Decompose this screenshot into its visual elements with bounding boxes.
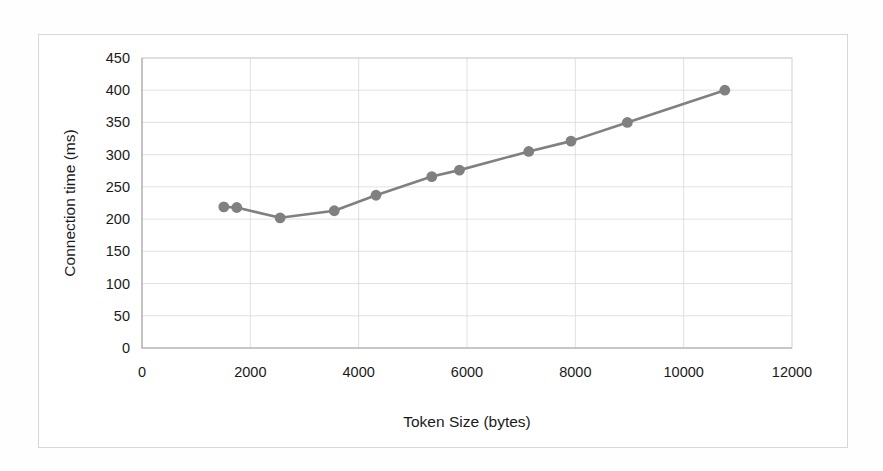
chart-figure: 050100150200250300350400450 020004000600… bbox=[0, 0, 883, 471]
x-tick-label: 10000 bbox=[664, 364, 704, 380]
data-point-marker bbox=[329, 205, 340, 216]
y-tick-label: 450 bbox=[106, 50, 130, 66]
y-tick-label: 50 bbox=[114, 308, 130, 324]
data-point-marker bbox=[426, 171, 437, 182]
x-tick-label: 8000 bbox=[559, 364, 591, 380]
data-point-marker bbox=[218, 201, 229, 212]
data-point-marker bbox=[523, 146, 534, 157]
x-tick-labels: 020004000600080001000012000 bbox=[138, 364, 812, 380]
y-tick-label: 350 bbox=[106, 114, 130, 130]
x-tick-label: 4000 bbox=[343, 364, 375, 380]
y-tick-label: 100 bbox=[106, 276, 130, 292]
y-tick-label: 0 bbox=[122, 340, 130, 356]
series-line-connection-time bbox=[224, 90, 725, 218]
data-point-marker bbox=[231, 202, 242, 213]
x-tick-label: 0 bbox=[138, 364, 146, 380]
y-tick-label: 200 bbox=[106, 211, 130, 227]
data-point-marker bbox=[566, 136, 577, 147]
y-tick-label: 400 bbox=[106, 82, 130, 98]
line-chart: 050100150200250300350400450 020004000600… bbox=[0, 0, 883, 471]
x-tick-label: 12000 bbox=[772, 364, 812, 380]
data-point-marker bbox=[622, 117, 633, 128]
data-point-marker bbox=[454, 165, 465, 176]
y-tick-label: 300 bbox=[106, 147, 130, 163]
data-point-marker bbox=[719, 85, 730, 96]
y-axis-title: Connection time (ms) bbox=[61, 129, 78, 276]
y-tick-labels: 050100150200250300350400450 bbox=[106, 50, 130, 356]
y-tick-label: 250 bbox=[106, 179, 130, 195]
x-axis-title: Token Size (bytes) bbox=[403, 413, 531, 430]
y-tick-label: 150 bbox=[106, 243, 130, 259]
series-markers bbox=[218, 85, 730, 223]
data-point-marker bbox=[275, 212, 286, 223]
x-tick-label: 2000 bbox=[234, 364, 266, 380]
data-point-marker bbox=[371, 190, 382, 201]
x-tick-label: 6000 bbox=[451, 364, 483, 380]
